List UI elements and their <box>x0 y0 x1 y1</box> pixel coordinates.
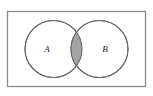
set-label-b: B <box>102 44 108 54</box>
venn-diagram-figure: A B <box>0 0 153 96</box>
set-label-a: A <box>43 44 50 54</box>
venn-diagram-canvas: A B <box>0 0 153 96</box>
